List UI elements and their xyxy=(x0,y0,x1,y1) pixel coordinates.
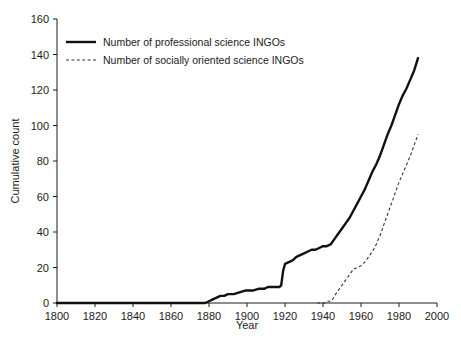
chart-legend: Number of professional science INGOs Num… xyxy=(66,36,304,66)
legend-label-professional: Number of professional science INGOs xyxy=(103,36,285,48)
x-tick-label: 1820 xyxy=(83,310,107,322)
legend-label-socially-oriented: Number of socially oriented science INGO… xyxy=(103,54,304,66)
x-tick-label: 1840 xyxy=(121,310,145,322)
x-tick-label: 2000 xyxy=(425,310,449,322)
x-tick-label: 1920 xyxy=(273,310,297,322)
line-chart-figure: 020406080100120140160 Cumulative count 1… xyxy=(0,0,461,347)
y-axis-ticks xyxy=(53,19,57,303)
y-tick-label: 40 xyxy=(37,226,49,238)
y-tick-label: 60 xyxy=(37,191,49,203)
data-series-group xyxy=(57,58,418,303)
x-axis: 1800182018401860188019001920194019601980… xyxy=(45,303,449,331)
x-tick-label: 1880 xyxy=(197,310,221,322)
x-tick-label: 1940 xyxy=(311,310,335,322)
chart-container: 020406080100120140160 Cumulative count 1… xyxy=(0,0,461,347)
y-tick-label: 0 xyxy=(43,297,49,309)
y-tick-label: 120 xyxy=(31,84,49,96)
x-tick-label: 1960 xyxy=(349,310,373,322)
x-tick-label: 1860 xyxy=(159,310,183,322)
x-tick-label: 1980 xyxy=(387,310,411,322)
y-axis: 020406080100120140160 Cumulative count xyxy=(9,13,57,309)
x-axis-title: Year xyxy=(236,319,259,331)
series-professional-science-ingos xyxy=(57,58,418,303)
y-axis-tick-labels: 020406080100120140160 xyxy=(31,13,49,309)
y-tick-label: 160 xyxy=(31,13,49,25)
y-tick-label: 80 xyxy=(37,155,49,167)
y-tick-label: 140 xyxy=(31,49,49,61)
y-tick-label: 20 xyxy=(37,262,49,274)
y-tick-label: 100 xyxy=(31,120,49,132)
x-tick-label: 1800 xyxy=(45,310,69,322)
series-socially-oriented-science-ingos xyxy=(317,134,418,303)
y-axis-title: Cumulative count xyxy=(9,119,21,204)
